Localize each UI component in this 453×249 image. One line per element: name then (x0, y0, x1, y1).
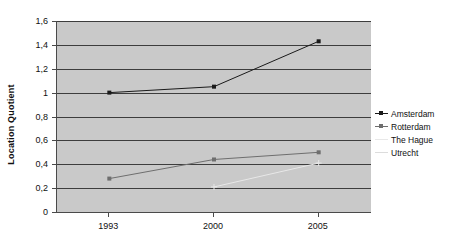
data-point-marker (107, 177, 111, 181)
legend-item-label: Utrecht (391, 147, 418, 159)
y-axis-tick-label: 1,6 (4, 16, 48, 26)
x-axis-tick-mark (213, 213, 214, 217)
y-axis-tick-label: 0 (4, 207, 48, 217)
y-axis-tick-label: 0,4 (4, 159, 48, 169)
y-axis-tick-label: 0,6 (4, 135, 48, 145)
y-axis-tick-label: 0,2 (4, 183, 48, 193)
x-axis-tick-label: 1993 (98, 221, 118, 231)
legend-item-label: Amsterdam (391, 108, 434, 120)
series-line (109, 152, 318, 178)
y-axis-tick-labels: 00,20,40,60,811,21,41,6 (0, 21, 52, 212)
chart-legend: AmsterdamRotterdamThe HagueUtrecht (375, 107, 453, 159)
y-axis-tick-label: 1 (4, 88, 48, 98)
legend-marker-icon (375, 148, 388, 157)
x-axis-tick-label: 2005 (308, 221, 328, 231)
x-axis-tick-mark (318, 213, 319, 217)
line-chart: Location Quotient 00,20,40,60,811,21,41,… (0, 0, 453, 249)
y-axis-tick-label: 0,8 (4, 112, 48, 122)
data-point-marker (317, 39, 321, 43)
series-layer (57, 21, 371, 212)
legend-item-label: The Hague (391, 134, 433, 146)
legend-item-utrecht[interactable]: Utrecht (375, 146, 453, 159)
data-point-marker (317, 150, 321, 154)
x-axis-tick-labels: 199320002005 (56, 213, 370, 235)
data-point-marker (107, 91, 111, 95)
x-axis-tick-label: 2000 (203, 221, 223, 231)
legend-item-rotterdam[interactable]: Rotterdam (375, 120, 453, 133)
legend-marker-icon (375, 135, 388, 144)
legend-marker-icon (375, 109, 388, 118)
data-point-marker (211, 184, 217, 190)
legend-item-the-hague[interactable]: The Hague (375, 133, 453, 146)
plot-area (56, 21, 371, 213)
series-line (214, 163, 319, 187)
legend-marker-icon (375, 122, 388, 131)
legend-item-amsterdam[interactable]: Amsterdam (375, 107, 453, 120)
data-point-marker (316, 160, 322, 166)
y-axis-tick-label: 1,4 (4, 40, 48, 50)
data-point-marker (212, 85, 216, 89)
data-point-marker (212, 157, 216, 161)
x-axis-tick-mark (108, 213, 109, 217)
legend-item-label: Rotterdam (391, 121, 431, 133)
y-axis-tick-label: 1,2 (4, 64, 48, 74)
